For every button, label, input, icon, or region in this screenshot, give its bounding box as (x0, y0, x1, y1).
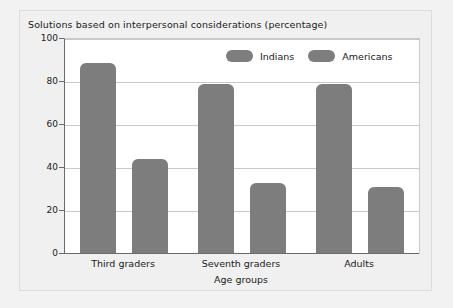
legend-label: Americans (342, 51, 392, 62)
y-axis-tick-label: 40 (28, 162, 58, 172)
bar (250, 183, 286, 254)
y-axis-tick-label: 80 (28, 76, 58, 86)
bar (132, 159, 168, 254)
x-axis-title: Age groups (214, 274, 268, 285)
y-axis-tick-mark (59, 253, 64, 254)
chart-figure: Solutions based on interpersonal conside… (0, 0, 453, 308)
chart-legend: IndiansAmericans (226, 50, 392, 62)
y-axis-tick-mark (59, 167, 64, 168)
gridline (65, 82, 419, 83)
x-axis-group-label: Adults (344, 258, 374, 269)
y-axis-tick-label: 0 (28, 248, 58, 258)
y-axis-tick-mark (59, 81, 64, 82)
x-axis-group-label: Third graders (91, 258, 155, 269)
bar (368, 187, 404, 254)
y-axis-tick-label: 100 (28, 33, 58, 43)
plot-area (64, 38, 420, 254)
y-axis-tick-mark (59, 124, 64, 125)
bar (80, 63, 116, 254)
legend-swatch-icon (308, 50, 335, 62)
y-axis-tick-label: 60 (28, 119, 58, 129)
y-axis-tick-mark (59, 38, 64, 39)
bar (316, 84, 352, 254)
y-axis-tick-mark (59, 210, 64, 211)
chart-title: Solutions based on interpersonal conside… (28, 19, 327, 30)
gridline (65, 125, 419, 126)
x-axis-group-label: Seventh graders (202, 258, 281, 269)
gridlines (65, 39, 419, 254)
y-axis-tick-label: 20 (28, 205, 58, 215)
legend-item: Americans (308, 50, 392, 62)
gridline (65, 39, 419, 40)
gridline (65, 211, 419, 212)
gridline (65, 168, 419, 169)
bar (198, 84, 234, 254)
x-axis-line (64, 253, 419, 254)
legend-swatch-icon (226, 50, 253, 62)
y-axis-labels: 020406080100 (26, 0, 58, 308)
legend-label: Indians (260, 51, 294, 62)
legend-item: Indians (226, 50, 294, 62)
